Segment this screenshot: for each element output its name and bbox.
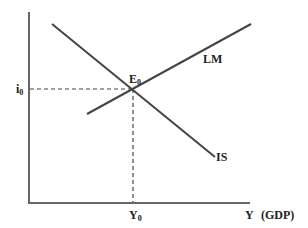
equilibrium-label: E0 (129, 72, 141, 87)
x-axis-label: Y (245, 208, 254, 222)
is-label: IS (216, 150, 228, 164)
interest-rate-label: i0 (16, 82, 23, 97)
is-lm-diagram: LM IS E0 i0 Y0 Y (GDP) (0, 0, 308, 228)
lm-label: LM (203, 52, 222, 66)
equilibrium-output-label: Y0 (129, 208, 142, 223)
lm-curve (87, 24, 251, 114)
x-axis-unit-label: (GDP) (261, 208, 294, 222)
